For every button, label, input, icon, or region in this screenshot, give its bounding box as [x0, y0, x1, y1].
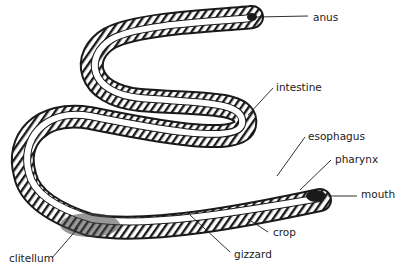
label-crop: crop	[273, 227, 296, 238]
leader-intestine	[248, 88, 273, 115]
worm-tail	[247, 13, 257, 21]
leader-esophagus	[277, 137, 305, 176]
leader-pharynx	[300, 160, 331, 190]
label-clitellum: clitellum	[9, 253, 54, 264]
clitellum-region	[60, 213, 120, 237]
label-intestine: intestine	[276, 82, 322, 93]
label-gizzard: gizzard	[234, 249, 272, 260]
label-anus: anus	[313, 12, 338, 23]
label-mouth: mouth	[361, 189, 395, 200]
label-esophagus: esophagus	[308, 131, 365, 142]
worm-head	[306, 190, 326, 202]
label-pharynx: pharynx	[335, 154, 378, 165]
worm-body	[23, 13, 326, 237]
leader-clitellum	[52, 228, 78, 258]
